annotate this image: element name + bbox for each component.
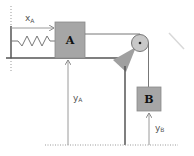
y-a-label: yA <box>73 93 83 103</box>
stray-mark <box>169 33 184 49</box>
pulley <box>132 35 149 52</box>
spring <box>11 36 55 46</box>
block-a-label: A <box>65 34 75 47</box>
block-b: B <box>137 87 161 111</box>
block-a: A <box>55 22 85 58</box>
block-b-label: B <box>144 93 153 106</box>
pulley-diagram: xA A B yA yB <box>0 0 194 156</box>
y-b-label: yB <box>155 123 164 133</box>
x-a-label: xA <box>25 13 35 24</box>
